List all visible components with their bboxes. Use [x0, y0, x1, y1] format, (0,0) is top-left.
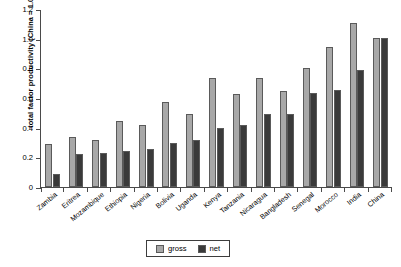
- legend-swatch-net: [198, 245, 206, 253]
- bar-gross[interactable]: [303, 68, 310, 187]
- bar-gross[interactable]: [69, 137, 76, 187]
- bar-group: [158, 10, 181, 187]
- chart-figure: total factor productivity (China = 1.0) …: [0, 0, 401, 267]
- bar-gross[interactable]: [162, 102, 169, 187]
- bar-group: [64, 10, 87, 187]
- bar-net[interactable]: [240, 125, 247, 187]
- bar-net[interactable]: [53, 174, 60, 187]
- bar-net[interactable]: [123, 151, 130, 187]
- bar-net[interactable]: [170, 143, 177, 188]
- bar-net[interactable]: [217, 128, 224, 187]
- bar-group: [252, 10, 275, 187]
- x-axis-label: China: [366, 190, 386, 209]
- bar-net[interactable]: [100, 153, 107, 187]
- y-axis-tick-label: 1.0: [22, 35, 33, 44]
- x-axis-label-cell: Nigeria: [135, 190, 158, 236]
- x-axis-label-cell: Bolivia: [158, 190, 181, 236]
- bar-gross[interactable]: [233, 94, 240, 187]
- bar-group: [181, 10, 204, 187]
- legend-label-net: net: [210, 244, 221, 253]
- bar-gross[interactable]: [45, 144, 52, 187]
- bar-gross[interactable]: [92, 140, 99, 187]
- y-axis-tick-label: 0: [29, 183, 33, 192]
- bar-group: [41, 10, 64, 187]
- bar-gross[interactable]: [209, 78, 216, 187]
- bar-net[interactable]: [264, 114, 271, 187]
- y-axis-tick-label: 1.2: [22, 5, 33, 14]
- bar-group: [275, 10, 298, 187]
- chart-legend: grossnet: [146, 240, 230, 257]
- bar-gross[interactable]: [373, 38, 380, 187]
- bar-series-container: [41, 10, 392, 187]
- bar-net[interactable]: [147, 149, 154, 187]
- x-axis-label-cell: India: [345, 190, 368, 236]
- x-axis-label-cell: Uganda: [181, 190, 204, 236]
- x-axis-label-cell: Morocco: [322, 190, 345, 236]
- x-axis-label-cell: China: [369, 190, 392, 236]
- bar-gross[interactable]: [350, 23, 357, 187]
- legend-label-gross: gross: [168, 244, 187, 253]
- bar-net[interactable]: [310, 93, 317, 187]
- bar-net[interactable]: [334, 90, 341, 187]
- bar-gross[interactable]: [280, 91, 287, 187]
- x-axis-labels: ZambiaEritreaMozambiqueEthiopiaNigeriaBo…: [41, 190, 392, 236]
- x-axis-label: Zambia: [34, 190, 58, 212]
- bar-group: [369, 10, 392, 187]
- bar-group: [298, 10, 321, 187]
- x-axis-label: India: [345, 190, 363, 207]
- bar-net[interactable]: [357, 70, 364, 187]
- bar-gross[interactable]: [116, 121, 123, 187]
- bar-gross[interactable]: [139, 125, 146, 187]
- bar-group: [111, 10, 134, 187]
- bar-net[interactable]: [287, 114, 294, 187]
- bar-net[interactable]: [193, 140, 200, 187]
- legend-swatch-gross: [156, 245, 164, 253]
- y-axis-tick-label: 0.8: [22, 64, 33, 73]
- plot-area: 00.20.40.60.81.01.2: [40, 10, 392, 188]
- bar-group: [345, 10, 368, 187]
- y-axis-tick-label: 0.2: [22, 153, 33, 162]
- x-axis-label-cell: Ethiopia: [111, 190, 134, 236]
- bar-net[interactable]: [76, 154, 83, 187]
- bar-gross[interactable]: [186, 114, 193, 187]
- x-axis-label-cell: Zambia: [41, 190, 64, 236]
- legend-item-net[interactable]: net: [198, 244, 221, 253]
- bar-group: [322, 10, 345, 187]
- y-axis-tick-label: 0.4: [22, 124, 33, 133]
- y-axis-tick-label: 0.6: [22, 94, 33, 103]
- legend-item-gross[interactable]: gross: [156, 244, 187, 253]
- bar-net[interactable]: [381, 38, 388, 187]
- bar-group: [228, 10, 251, 187]
- bar-group: [88, 10, 111, 187]
- bar-gross[interactable]: [256, 78, 263, 187]
- bar-gross[interactable]: [326, 47, 333, 187]
- bar-group: [135, 10, 158, 187]
- bar-group: [205, 10, 228, 187]
